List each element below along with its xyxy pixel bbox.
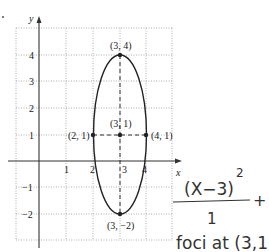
label-top: (3, 4) <box>110 40 132 52</box>
hand-fraction-bar <box>173 200 250 202</box>
label-left: (2, 1) <box>68 130 90 142</box>
hand-numerator: (X−3) <box>184 179 234 199</box>
point-center <box>118 133 122 137</box>
label-bottom: (3, −2) <box>107 220 134 232</box>
ellipse-figure: x y 1 2 3 4 4 3 2 1 −1 −2 (3, 4) (3, 1) … <box>0 0 269 252</box>
stray-dot <box>2 16 4 18</box>
y-axis-arrow-icon <box>37 16 42 23</box>
x-tick-3: 3 <box>122 164 127 175</box>
x-axis-arrow-icon <box>175 159 182 164</box>
hand-exponent: 2 <box>236 166 244 180</box>
y-tick-3: 3 <box>29 76 34 87</box>
x-tick-2: 2 <box>90 164 95 175</box>
y-tick-4: 4 <box>29 50 34 61</box>
point-bottom <box>118 212 122 216</box>
point-left <box>91 133 95 137</box>
label-center: (3, 1) <box>110 118 132 130</box>
label-right: (4, 1) <box>151 130 173 142</box>
hand-plus: + <box>253 191 266 210</box>
y-axis-label: y <box>28 13 34 24</box>
hand-denominator: 1 <box>207 210 217 228</box>
x-axis-label: x <box>175 167 181 178</box>
y-tick-2: 2 <box>29 103 34 114</box>
point-top <box>118 53 122 57</box>
point-right <box>144 133 148 137</box>
y-tick-neg2: −2 <box>22 209 33 220</box>
y-tick-1: 1 <box>29 130 34 141</box>
handwritten-notes: (X−3) 2 + 1 foci at (3,1 <box>173 166 268 252</box>
y-tick-neg1: −1 <box>22 182 33 193</box>
x-tick-1: 1 <box>64 164 69 175</box>
hand-foci: foci at (3,1 <box>176 233 268 252</box>
